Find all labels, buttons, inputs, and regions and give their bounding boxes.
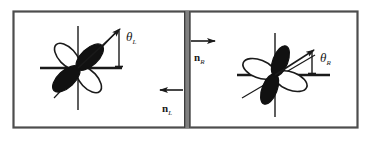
interface-divider (184, 11, 191, 128)
figure-canvas: θL nL (0, 0, 373, 141)
orbital-interface-figure: θL nL (0, 0, 373, 141)
